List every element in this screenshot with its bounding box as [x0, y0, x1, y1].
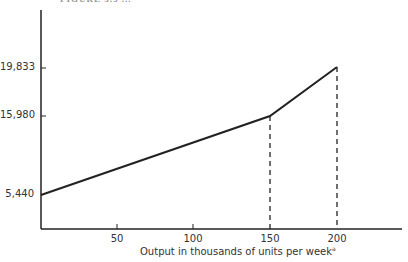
x-axis-label-text: Output in thousands of units per week — [140, 246, 332, 257]
y-tick-label: 15,980 — [0, 109, 34, 120]
cost-line — [41, 67, 337, 195]
footnote-marker: a — [332, 245, 336, 252]
x-tick-label: 100 — [178, 233, 208, 244]
x-tick-label: 50 — [102, 233, 132, 244]
y-tick-label: 19,833 — [0, 61, 34, 72]
line-chart — [0, 0, 408, 262]
x-axis-label: Output in thousands of units per weeka — [140, 245, 336, 257]
x-tick-label: 150 — [255, 233, 285, 244]
x-tick-label: 200 — [322, 233, 352, 244]
y-tick-label: 5,440 — [0, 188, 34, 199]
